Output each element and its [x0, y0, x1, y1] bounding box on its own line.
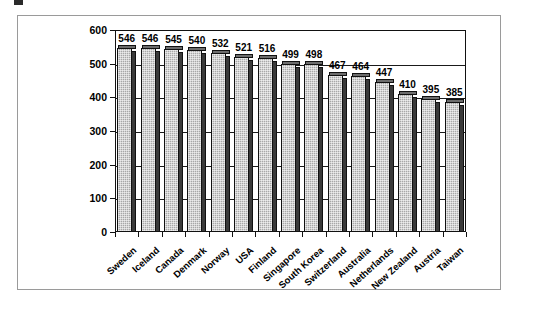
y-axis-tick-mark	[110, 198, 115, 199]
x-axis-tick-mark	[255, 232, 256, 237]
bar-top-face	[142, 45, 160, 49]
bar-shadow	[342, 78, 347, 232]
bar-top-face	[235, 54, 253, 58]
y-axis-tick-mark	[110, 30, 115, 31]
y-axis-tick-label: 400	[67, 92, 107, 103]
x-axis-tick-mark	[162, 232, 163, 237]
bar-body	[351, 76, 366, 232]
x-axis-tick-mark	[419, 232, 420, 237]
y-axis-tick-mark	[110, 97, 115, 98]
x-axis-tick-mark	[372, 232, 373, 237]
bar[interactable]	[375, 82, 394, 232]
x-axis-tick-mark	[279, 232, 280, 237]
x-axis-tick-mark	[209, 232, 210, 237]
x-axis-tick-mark	[232, 232, 233, 237]
bar-shadow	[435, 102, 440, 232]
bar-shadow	[318, 67, 323, 232]
bar-body	[187, 50, 202, 232]
bar[interactable]	[117, 48, 136, 232]
bar[interactable]	[234, 57, 253, 232]
bar-body	[398, 94, 413, 232]
bar-top-face	[399, 91, 417, 95]
x-axis-tick-mark	[115, 232, 116, 237]
bar-top-face	[212, 50, 230, 54]
x-axis-tick-mark	[138, 232, 139, 237]
x-axis-tick-mark	[326, 232, 327, 237]
bar-shadow	[225, 56, 230, 232]
y-axis-tick-label: 600	[67, 25, 107, 36]
bar-body	[375, 82, 390, 232]
bar-body	[421, 99, 436, 232]
bar-top-face	[118, 45, 136, 49]
bar-chart: 0100200300400500600546Sweden546Iceland54…	[0, 0, 546, 310]
bar[interactable]	[258, 58, 277, 232]
bar-top-face	[329, 72, 347, 76]
bar-body	[164, 49, 179, 232]
bar-shadow	[248, 60, 253, 232]
x-axis-tick-mark	[466, 232, 467, 237]
bar-value-label: 447	[371, 68, 398, 78]
bar-value-label: 385	[441, 88, 468, 98]
bar-shadow	[272, 61, 277, 232]
y-axis-tick-label: 0	[67, 227, 107, 238]
bar-shadow	[178, 52, 183, 232]
y-axis-tick-mark	[110, 64, 115, 65]
bar-shadow	[365, 79, 370, 232]
bar[interactable]	[398, 94, 417, 232]
bar-body	[328, 75, 343, 232]
bar[interactable]	[351, 76, 370, 232]
bar-body	[141, 48, 156, 232]
bar[interactable]	[211, 53, 230, 232]
bar-body	[234, 57, 249, 232]
bar-top-face	[352, 73, 370, 77]
x-axis-tick-mark	[443, 232, 444, 237]
bar[interactable]	[187, 50, 206, 232]
bar[interactable]	[445, 102, 464, 232]
bar-shadow	[295, 67, 300, 232]
y-axis-tick-label: 300	[67, 126, 107, 137]
bar[interactable]	[421, 99, 440, 232]
bar-body	[117, 48, 132, 232]
bar-top-face	[165, 46, 183, 50]
bar-shadow	[201, 53, 206, 232]
bar[interactable]	[328, 75, 347, 232]
bar-shadow	[155, 51, 160, 232]
y-axis-tick-label: 500	[67, 59, 107, 70]
bar-top-face	[422, 96, 440, 100]
bar-top-face	[282, 61, 300, 65]
bar-top-face	[305, 61, 323, 65]
y-axis-tick-label: 100	[67, 193, 107, 204]
bar-top-face	[446, 99, 464, 103]
bar[interactable]	[164, 49, 183, 232]
bar-top-face	[259, 55, 277, 59]
bar[interactable]	[281, 64, 300, 232]
bar-shadow	[459, 105, 464, 232]
x-axis-tick-mark	[349, 232, 350, 237]
bar[interactable]	[304, 64, 323, 232]
bar-body	[258, 58, 273, 232]
bar-top-face	[188, 47, 206, 51]
y-axis-tick-mark	[110, 165, 115, 166]
bar-body	[304, 64, 319, 232]
y-axis-tick-mark	[110, 131, 115, 132]
x-axis-tick-mark	[302, 232, 303, 237]
bar-body	[211, 53, 226, 232]
bar-body	[281, 64, 296, 232]
bar-body	[445, 102, 460, 232]
x-axis-tick-mark	[396, 232, 397, 237]
bar-value-label: 498	[300, 50, 327, 60]
bar-top-face	[376, 79, 394, 83]
bar[interactable]	[141, 48, 160, 232]
y-axis-tick-label: 200	[67, 160, 107, 171]
x-axis-tick-mark	[185, 232, 186, 237]
bar-shadow	[131, 51, 136, 232]
bar-shadow	[412, 97, 417, 232]
bar-shadow	[389, 85, 394, 232]
